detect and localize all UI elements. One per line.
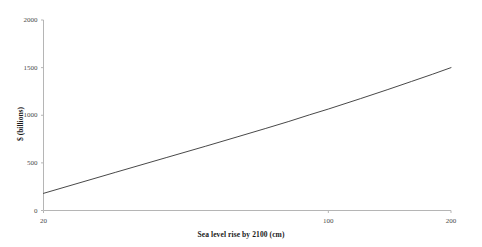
axis-lines: [44, 20, 452, 211]
x-tick-label: 20: [40, 218, 47, 225]
y-tick-label: 0: [0, 207, 38, 214]
chart-plot-svg: [0, 0, 482, 247]
y-tick-label: 500: [0, 159, 38, 166]
data-line: [44, 68, 452, 194]
data-series-group: [44, 68, 452, 194]
x-tick-label: 100: [323, 218, 334, 225]
y-tick-label: 1500: [0, 64, 38, 71]
x-tick-label: 200: [446, 218, 457, 225]
y-axis-title: $ (billions): [16, 107, 25, 141]
x-axis-title: Sea level rise by 2100 (cm): [0, 230, 482, 239]
y-tick-label: 2000: [0, 17, 38, 24]
chart-container: 2000150010005000 20100200 Sea level rise…: [0, 0, 482, 247]
